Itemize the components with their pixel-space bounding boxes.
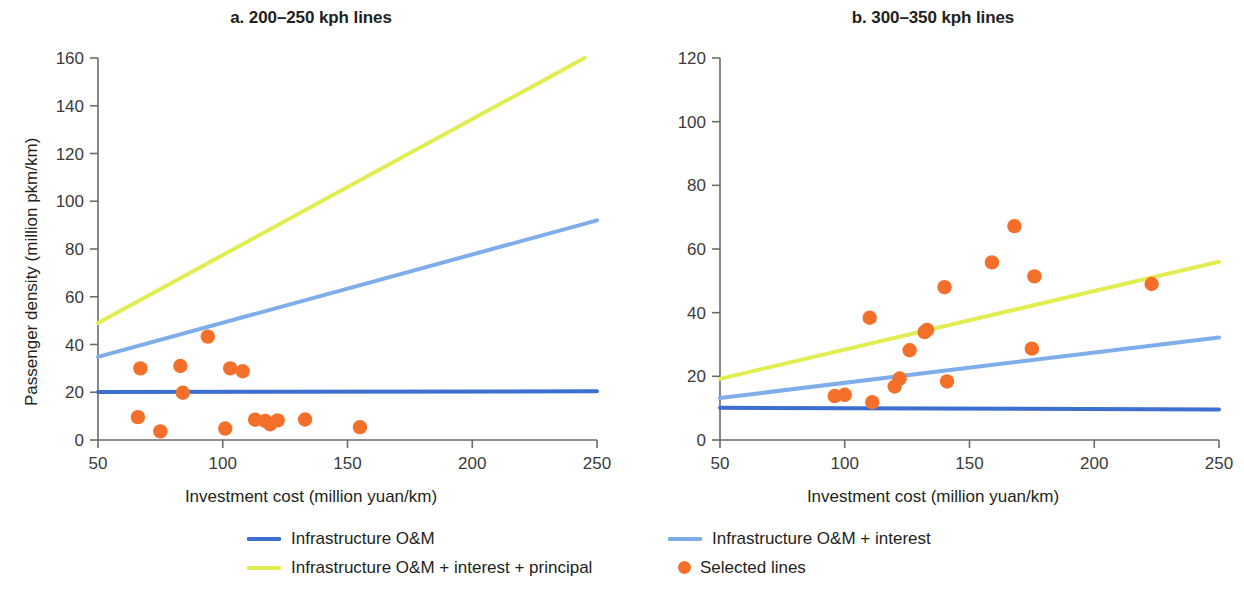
panel-a-y-tick-label: 140 [56, 97, 84, 116]
panel-a-y-tick-label: 80 [65, 240, 84, 259]
panel-b-y-tick-label: 120 [678, 49, 706, 68]
panel-a-scatter-point [201, 329, 215, 343]
legend-dot-swatch-orange [678, 561, 691, 574]
panel-b-x-tick-label: 250 [1205, 454, 1233, 473]
panel-a-scatter-point [353, 420, 367, 434]
panel-b-scatter-point [1007, 219, 1021, 233]
panel-b-scatter-point [865, 395, 879, 409]
panel-a-x-tick-label: 50 [89, 454, 108, 473]
panel-a-x-tick-label: 100 [209, 454, 237, 473]
panel-b-y-tick-label: 40 [687, 304, 706, 323]
panel-a-y-tick-label: 160 [56, 49, 84, 68]
panel-a-y-tick-label: 40 [65, 336, 84, 355]
legend-item-selected-lines[interactable]: Selected lines [668, 559, 806, 576]
panel-a-x-tick-label: 250 [583, 454, 611, 473]
panel-a-scatter-point [153, 424, 167, 438]
panel-a-scatter-point [133, 361, 147, 375]
legend-label-infrastructure-om-interest-principal: Infrastructure O&M + interest + principa… [291, 559, 592, 576]
panel-b-series-line [720, 408, 1219, 410]
panel-a-scatter-point [176, 386, 190, 400]
panel-b-y-tick-label: 20 [687, 367, 706, 386]
legend-line-swatch-yellow [247, 566, 281, 570]
panel-a-plot: 50100150200250020406080100120140160 [0, 0, 622, 520]
panel-a-x-tick-label: 150 [333, 454, 361, 473]
panel-a-y-tick-label: 100 [56, 192, 84, 211]
panel-a-y-tick-label: 20 [65, 383, 84, 402]
chart-panel-b: b. 300–350 kph lines Passenger density (… [622, 0, 1244, 520]
panel-b-scatter-point [985, 255, 999, 269]
legend-line-swatch-dark-blue [247, 537, 281, 541]
legend-label-infrastructure-om: Infrastructure O&M [291, 530, 435, 547]
panel-b-scatter-point [1025, 341, 1039, 355]
panel-a-scatter-point [270, 413, 284, 427]
panel-b-scatter-point [892, 371, 906, 385]
legend-line-swatch-light-blue [668, 537, 702, 541]
chart-legend: Infrastructure O&M Infrastructure O&M + … [0, 528, 1244, 591]
figure-container: a. 200–250 kph lines Passenger density (… [0, 0, 1244, 591]
panel-a-y-tick-label: 0 [75, 431, 84, 450]
panel-a-scatter-point [298, 412, 312, 426]
legend-label-infrastructure-om-interest: Infrastructure O&M + interest [712, 530, 931, 547]
panel-a-y-tick-label: 120 [56, 145, 84, 164]
panel-b-scatter-point [937, 280, 951, 294]
panel-b-y-tick-label: 0 [697, 431, 706, 450]
panel-a-scatter-point [173, 359, 187, 373]
panel-a-series-line [98, 391, 597, 392]
chart-panel-a: a. 200–250 kph lines Passenger density (… [0, 0, 622, 520]
panel-b-scatter-point [863, 311, 877, 325]
panel-a-y-tick-label: 60 [65, 288, 84, 307]
panel-b-x-tick-label: 200 [1080, 454, 1108, 473]
panel-b-x-tick-label: 150 [955, 454, 983, 473]
panel-b-y-tick-label: 80 [687, 176, 706, 195]
legend-item-infrastructure-om[interactable]: Infrastructure O&M [247, 530, 435, 547]
panel-a-series-line [98, 220, 597, 357]
panel-a-scatter-point [223, 361, 237, 375]
panel-b-scatter-point [920, 323, 934, 337]
panel-b-scatter-point [838, 388, 852, 402]
panel-b-y-tick-label: 100 [678, 113, 706, 132]
panel-b-scatter-point [902, 343, 916, 357]
panel-b-plot: 50100150200250020406080100120 [622, 0, 1244, 520]
panel-b-x-tick-label: 50 [711, 454, 730, 473]
legend-item-infrastructure-om-interest-principal[interactable]: Infrastructure O&M + interest + principa… [247, 559, 592, 576]
panel-a-scatter-point [218, 421, 232, 435]
legend-row-1: Infrastructure O&M Infrastructure O&M + … [0, 528, 1244, 558]
panel-b-scatter-point [1144, 277, 1158, 291]
panel-a-scatter-point [131, 410, 145, 424]
legend-row-2: Infrastructure O&M + interest + principa… [0, 557, 1244, 587]
panel-b-x-tick-label: 100 [831, 454, 859, 473]
legend-item-infrastructure-om-interest[interactable]: Infrastructure O&M + interest [668, 530, 931, 547]
panel-b-scatter-point [1027, 269, 1041, 283]
panel-b-scatter-point [940, 374, 954, 388]
legend-label-selected-lines: Selected lines [700, 559, 806, 576]
panel-b-series-line [720, 337, 1219, 397]
panel-a-series-line [98, 58, 585, 323]
panel-a-scatter-point [236, 364, 250, 378]
panel-a-x-tick-label: 200 [458, 454, 486, 473]
panel-b-y-tick-label: 60 [687, 240, 706, 259]
panel-b-series-line [720, 262, 1219, 379]
